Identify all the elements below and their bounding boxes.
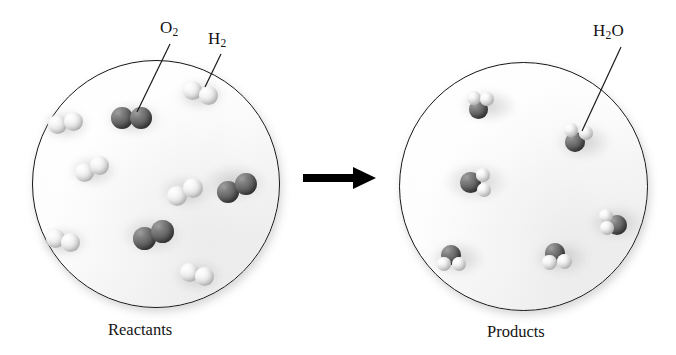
reaction-diagram: O2 H2 H2O Reactants Products — [0, 0, 676, 355]
label-o2-element: O — [160, 18, 172, 37]
caption-reactants: Reactants — [108, 320, 172, 340]
label-h2o-element-o: O — [611, 21, 623, 40]
label-h2o: H2O — [593, 21, 624, 41]
caption-products: Products — [487, 322, 545, 342]
label-h2o-subscript: 2 — [605, 29, 611, 41]
label-h2o-element-h: H — [593, 21, 605, 40]
label-h2-element: H — [208, 29, 220, 48]
label-h2-subscript: 2 — [220, 37, 226, 49]
o2-leader-line — [0, 0, 676, 355]
label-h2: H2 — [208, 29, 226, 49]
label-o2-subscript: 2 — [172, 26, 178, 38]
label-o2: O2 — [160, 18, 178, 38]
